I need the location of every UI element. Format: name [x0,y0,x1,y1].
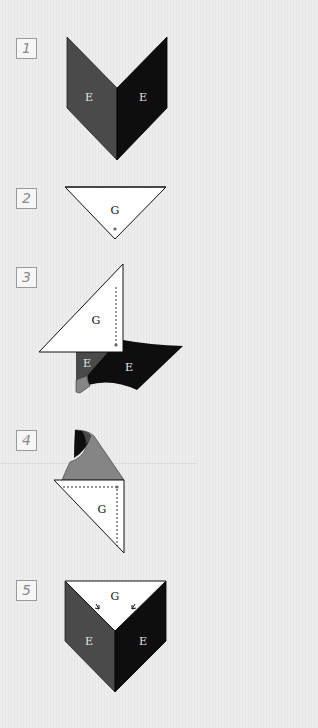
step-4-figure: G [54,430,124,553]
reference-dot [113,227,116,230]
step-2-figure: G [65,187,166,239]
label-e-right: E [139,635,147,648]
label-g: G [111,590,120,603]
label-e-left: E [85,91,93,104]
step-5-figure: G E E [65,581,166,692]
step-1-figure: E E [67,37,167,160]
gray-flap [62,430,124,480]
folding-diagram: E E G G E E G G [0,0,197,728]
label-e-black: E [125,361,133,374]
label-g: G [98,503,107,516]
reference-dot [114,343,117,346]
label-e-right: E [139,91,147,104]
step-3-figure: G E E [39,264,183,393]
label-e-left: E [85,635,93,648]
label-g: G [111,204,120,217]
label-e-dark: E [83,357,91,370]
reference-dot [115,485,118,488]
triangle-g [39,264,123,352]
label-g: G [92,314,101,327]
triangle-g [54,480,124,553]
